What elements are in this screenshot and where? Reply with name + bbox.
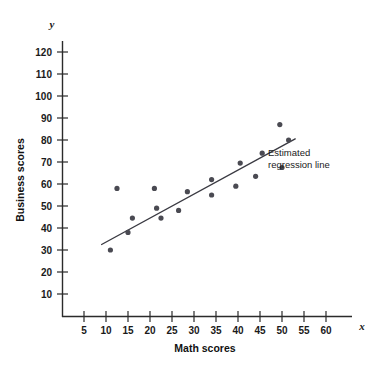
x-tick-label: 40 <box>232 325 244 336</box>
x-tick-label: 35 <box>210 325 222 336</box>
y-axis-title: Business scores <box>14 138 26 222</box>
data-point <box>114 186 119 191</box>
y-axis-variable-label: y <box>48 18 55 30</box>
data-point <box>209 192 214 197</box>
data-point <box>233 184 238 189</box>
y-tick-label: 100 <box>35 91 52 102</box>
regression-annotation-line-2: regression line <box>268 159 330 170</box>
y-tick-label: 60 <box>41 179 53 190</box>
data-point <box>277 122 282 127</box>
data-point <box>260 151 265 156</box>
y-tick-label: 20 <box>41 267 53 278</box>
data-point <box>130 216 135 221</box>
y-tick-label: 10 <box>41 289 53 300</box>
y-tick-label: 70 <box>41 157 53 168</box>
y-tick-label: 90 <box>41 113 53 124</box>
regression-annotation-line-1: Estimated <box>268 147 310 158</box>
x-axis-variable-label: x <box>358 320 365 332</box>
x-axis-title: Math scores <box>174 342 235 354</box>
y-tick-label: 40 <box>41 223 53 234</box>
data-point <box>125 230 130 235</box>
data-point <box>176 208 181 213</box>
data-point <box>158 216 163 221</box>
x-tick-label: 45 <box>254 325 266 336</box>
data-point <box>152 186 157 191</box>
x-tick-label: 55 <box>298 325 310 336</box>
data-point <box>154 206 159 211</box>
scatter-plot-figure: y x Math scores Business scores 10203040… <box>0 0 383 369</box>
y-tick-label: 80 <box>41 135 53 146</box>
x-tick-label: 25 <box>166 325 178 336</box>
data-point <box>286 137 291 142</box>
y-tick-label: 110 <box>36 69 53 80</box>
data-point <box>185 189 190 194</box>
y-tick-label: 30 <box>41 245 53 256</box>
chart-canvas: y x Math scores Business scores 10203040… <box>0 0 383 369</box>
x-tick-label: 50 <box>276 325 288 336</box>
x-tick-label: 15 <box>122 325 134 336</box>
data-point <box>108 247 113 252</box>
data-point <box>209 177 214 182</box>
y-tick-label: 120 <box>35 47 52 58</box>
x-tick-label: 30 <box>188 325 200 336</box>
data-point <box>238 161 243 166</box>
x-tick-label: 5 <box>81 325 87 336</box>
x-tick-label: 60 <box>320 325 332 336</box>
data-point <box>253 174 258 179</box>
x-tick-label: 20 <box>144 325 156 336</box>
y-tick-label: 50 <box>41 201 53 212</box>
x-tick-label: 10 <box>100 325 112 336</box>
